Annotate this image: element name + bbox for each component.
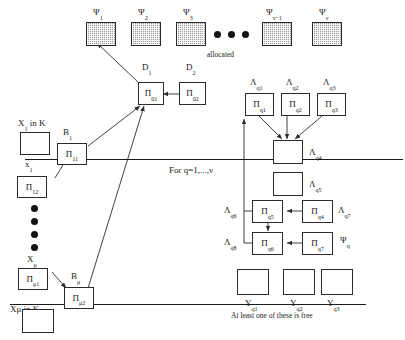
node-piq4-text: Πq4 [311,207,324,216]
node-pi12-text: Π12 [26,183,39,192]
d2-label: D2 [186,63,196,72]
vertical-ellipsis-dot-3 [31,231,38,238]
vertical-ellipsis-dot-2 [31,218,38,225]
node-pimu2-text: Πμ2 [73,294,86,303]
node-pimu1-text: Πμ1 [27,275,40,284]
psi-label-nu-minus-1: Ψν−1 [266,8,282,17]
psi-block-1[interactable] [86,22,116,46]
node-pi02-text: Π02 [186,89,199,98]
node-piq2[interactable]: Πq2 [281,93,310,116]
psi-block-nu-minus-1[interactable] [262,22,292,46]
wire-piq1-to-lq4 [259,116,282,139]
node-pi11-text: Π11 [66,150,78,159]
ellipsis-dot-2 [228,31,235,38]
lambda-q6-label: Λq6 [224,206,237,215]
node-piq3-text: Πq3 [325,100,338,109]
psi-label-3: Ψ3 [183,8,193,17]
node-piq2-text: Πq2 [289,100,302,109]
box-y-q2[interactable] [283,269,315,295]
allocated-caption: allocated [207,51,234,59]
wire-pi11-to-pi01 [88,106,140,146]
node-piq5[interactable]: Πq5 [252,200,283,223]
node-pimu2[interactable]: Πμ2 [64,287,94,309]
vertical-ellipsis-dot-1 [31,205,38,212]
box-lambda-q5[interactable] [273,172,303,196]
y-q1-label: Yq1 [245,299,258,308]
xmu-label: Xμ [27,255,37,264]
x1-in-k-label: X1 in K [18,119,46,128]
vertical-ellipsis-dot-4 [31,244,38,251]
y-q2-label: Yq2 [290,299,303,308]
ellipsis-dot-1 [214,31,221,38]
node-piq7-text: Πq7 [311,239,324,248]
y-q3-label: Yq3 [327,299,340,308]
lambda-q3-label: Λq3 [323,78,336,87]
lambda-q2-label: Λq2 [286,78,299,87]
node-piq1[interactable]: Πq1 [245,93,274,116]
node-piq6[interactable]: Πq6 [252,232,283,255]
box-xbarmu-in-k[interactable] [22,309,54,333]
node-pi11[interactable]: Π11 [57,143,87,165]
node-piq3[interactable]: Πq3 [317,93,346,116]
psi-label-1: Ψ1 [93,8,103,17]
psi-block-2[interactable] [131,22,161,46]
loop-note: For q=1,...,ν [169,166,213,175]
lambda-q7-label: Λq7 [338,206,351,215]
d1-label: D1 [142,63,152,72]
bmu-label: Bμ [71,272,80,281]
node-piq1-text: Πq1 [253,100,266,109]
box-y-q1[interactable] [237,269,269,295]
psi-label-nu: Ψν [319,8,328,17]
ellipsis-dot-3 [242,31,249,38]
lambda-q4-label: Λq4 [309,148,322,157]
box-x1-in-k[interactable] [20,132,50,155]
node-pi12[interactable]: Π12 [17,176,47,198]
footer-note: At least one of these is free [231,312,313,320]
psi-block-nu[interactable] [312,22,342,46]
psi-block-3[interactable] [176,22,206,46]
lambda-q8-label: Λq8 [224,238,237,247]
psi-label-2: Ψ2 [138,8,148,17]
wire-pimu1-to-pimu2 [52,272,66,288]
node-pi01-text: Π01 [145,89,158,98]
lambda-q1-label: Λq1 [250,78,263,87]
node-piq6-text: Πq6 [261,239,274,248]
wire-pimu2-to-pi01 [85,106,144,298]
b1-label: B1 [63,128,72,137]
lambda-q5-label: Λq5 [309,180,322,189]
wire-pi01-to-psi1 [97,43,139,83]
wire-feedback-piq6-to-piq1 [244,119,252,243]
wire-piq3-to-lq4 [295,116,322,139]
node-piq5-text: Πq5 [261,207,274,216]
node-pi02[interactable]: Π02 [179,82,206,105]
psi-q-label: Ψq [340,236,350,245]
node-pimu1[interactable]: Πμ1 [18,268,48,290]
node-pi01[interactable]: Π01 [138,82,164,105]
box-lambda-q4[interactable] [273,140,303,164]
box-y-q3[interactable] [321,269,353,295]
node-piq7[interactable]: Πq7 [302,232,333,255]
node-piq4[interactable]: Πq4 [302,200,333,223]
